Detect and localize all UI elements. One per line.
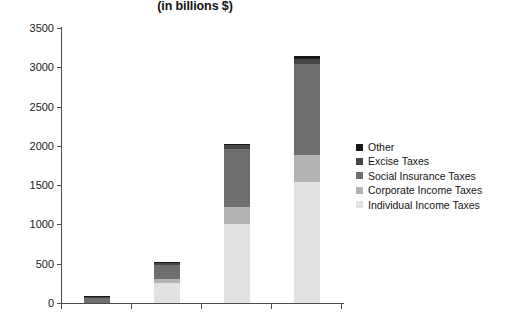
- legend-item[interactable]: Social Insurance Taxes: [356, 169, 508, 183]
- legend-item[interactable]: Individual Income Taxes: [356, 198, 508, 212]
- bar-segment[interactable]: [154, 279, 180, 283]
- bar-segment[interactable]: [224, 224, 250, 303]
- legend-item[interactable]: Excise Taxes: [356, 154, 508, 168]
- y-axis-tick: [57, 264, 62, 265]
- chart-title: (in billions $): [0, 0, 390, 13]
- bar-segment[interactable]: [294, 182, 320, 303]
- y-axis-tick-label: 0: [48, 298, 54, 309]
- bar-segment[interactable]: [224, 144, 250, 145]
- y-axis-tick: [57, 146, 62, 147]
- x-axis-tick: [61, 303, 62, 309]
- y-axis-tick: [57, 67, 62, 68]
- y-axis-tick: [57, 224, 62, 225]
- bar-stack[interactable]: [294, 56, 320, 304]
- x-axis-tick: [271, 303, 272, 309]
- bar-segment[interactable]: [84, 298, 110, 303]
- legend-item[interactable]: Other: [356, 140, 508, 154]
- x-axis-tick: [341, 303, 342, 309]
- legend-swatch-icon: [356, 158, 363, 165]
- legend-swatch-icon: [356, 201, 363, 208]
- bar-segment[interactable]: [294, 56, 320, 59]
- y-axis-tick-label: 3500: [30, 23, 54, 34]
- plot-area: 0500100015002000250030003500: [62, 28, 342, 303]
- stacked-bar-chart: (in billions $) 050010001500200025003000…: [0, 0, 512, 315]
- y-axis-tick-label: 3000: [30, 62, 54, 73]
- legend-swatch-icon: [356, 187, 363, 194]
- y-axis-tick: [57, 107, 62, 108]
- bar-segment[interactable]: [84, 296, 110, 298]
- bar-segment[interactable]: [154, 283, 180, 303]
- x-axis-tick: [201, 303, 202, 309]
- y-axis-tick-label: 1000: [30, 219, 54, 230]
- legend-item-label: Other: [368, 142, 394, 153]
- legend-item[interactable]: Corporate Income Taxes: [356, 183, 508, 197]
- legend-swatch-icon: [356, 172, 363, 179]
- bar-segment[interactable]: [294, 59, 320, 65]
- bar-segment[interactable]: [154, 265, 180, 279]
- bar-stack[interactable]: [84, 296, 110, 303]
- bar-segment[interactable]: [154, 263, 180, 266]
- y-axis-tick-label: 2500: [30, 101, 54, 112]
- chart-legend: OtherExcise TaxesSocial Insurance TaxesC…: [356, 140, 508, 212]
- y-axis-tick: [57, 185, 62, 186]
- bar-stack[interactable]: [224, 144, 250, 303]
- bar-segment[interactable]: [294, 155, 320, 183]
- legend-item-label: Corporate Income Taxes: [368, 185, 482, 196]
- bar-segment[interactable]: [294, 64, 320, 154]
- y-axis-tick-label: 500: [36, 258, 54, 269]
- bar-segment[interactable]: [224, 149, 250, 207]
- y-axis-tick-label: 2000: [30, 140, 54, 151]
- legend-item-label: Individual Income Taxes: [368, 200, 480, 211]
- x-axis-line: [61, 303, 344, 304]
- x-axis-tick: [131, 303, 132, 309]
- legend-item-label: Social Insurance Taxes: [368, 171, 476, 182]
- legend-swatch-icon: [356, 144, 363, 151]
- bar-stack[interactable]: [154, 262, 180, 303]
- legend-item-label: Excise Taxes: [368, 156, 429, 167]
- bar-segment[interactable]: [224, 207, 250, 224]
- y-axis-tick-label: 1500: [30, 180, 54, 191]
- bar-segment[interactable]: [224, 145, 250, 149]
- y-axis-tick: [57, 28, 62, 29]
